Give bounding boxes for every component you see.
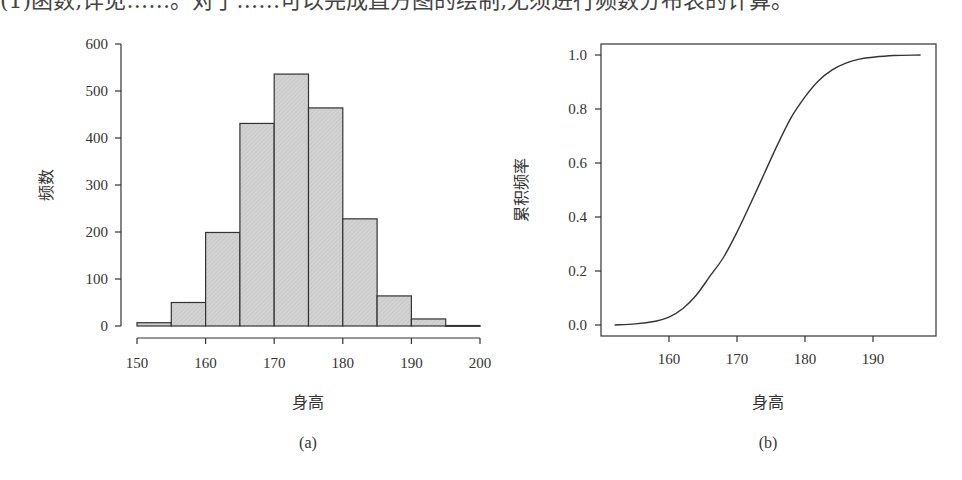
figure-caption-b: (b) bbox=[759, 434, 778, 452]
y-tick-label: 0.6 bbox=[568, 155, 587, 171]
y-tick-label: 0.0 bbox=[568, 317, 587, 333]
x-tick-label: 190 bbox=[862, 351, 885, 367]
x-tick-label: 160 bbox=[658, 351, 681, 367]
y-axis: 0.00.20.40.60.81.0 bbox=[568, 47, 601, 333]
x-axis-title: 身高 bbox=[752, 393, 784, 412]
x-tick-label: 170 bbox=[726, 351, 749, 367]
x-axis: 160170180190 bbox=[658, 336, 885, 367]
x-tick-label: 180 bbox=[794, 351, 817, 367]
plot-frame bbox=[601, 44, 936, 336]
y-tick-label: 1.0 bbox=[568, 47, 587, 63]
y-tick-label: 0.8 bbox=[568, 101, 587, 117]
y-tick-label: 0.2 bbox=[568, 263, 587, 279]
cumulative-curve bbox=[615, 55, 921, 325]
y-axis-title: 累积频率 bbox=[512, 158, 531, 222]
y-tick-label: 0.4 bbox=[568, 209, 587, 225]
cumulative-frequency-chart: 0.00.20.40.60.81.0 160170180190 累积频率 身高 … bbox=[0, 0, 962, 480]
